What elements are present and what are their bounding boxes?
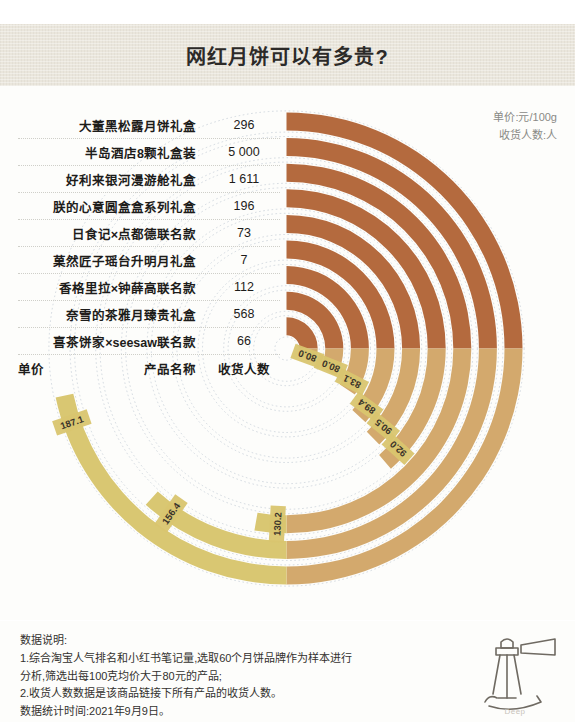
footnote-divider [0,620,575,621]
svg-text:130.2: 130.2 [271,512,283,536]
svg-text:83.1: 83.1 [341,372,363,391]
legend-unit-price: 单价:元/100g [493,108,557,126]
table-header-row: 单价 产品名称 收货人数 [18,355,280,381]
legend-unit-count: 收货人数:人 [493,126,557,144]
infographic-page: 网红月饼可以有多贵? 单价:元/100g 收货人数:人 187.1156.413… [0,0,575,722]
arc-value-label: 89.4 [350,392,384,422]
arc-value-label: 90.5 [367,411,400,442]
svg-text:187.1: 187.1 [59,413,86,431]
receipt-count: 1 611 [208,172,280,186]
page-title: 网红月饼可以有多贵? [186,41,388,70]
arc-value-label: 80.0 [290,344,324,369]
footnote-line-4: 数据统计时间:2021年9月9日。 [20,703,450,721]
table-row[interactable]: 朕的心意圆盒盒系列礼盒 196 [18,193,280,220]
arc-value-label: 187.1 [52,409,91,435]
footnote-heading: 数据说明: [20,632,450,650]
top-margin [0,0,575,24]
receipt-count: 66 [208,334,280,348]
product-name: 喜茶饼家×seesaw联名款 [18,332,208,351]
arc-value-label: 156.4 [154,494,187,533]
table-row[interactable]: 半岛酒店8颗礼盒装 5 000 [18,139,280,166]
column-header-count: 收货人数 [208,359,280,378]
receipt-count: 5 000 [208,145,280,159]
svg-text:92.0: 92.0 [388,439,409,460]
table-row[interactable]: 喜茶饼家×seesaw联名款 66 [18,328,280,355]
product-name: 香格里拉×钟薛高联名款 [18,278,208,297]
logo-caption: Deep [463,707,567,716]
receipt-count: 112 [208,280,280,294]
table-row[interactable]: 奈雪的茶雅月臻贵礼盒 568 [18,301,280,328]
receipt-count: 568 [208,307,280,321]
column-header-unit-price: 单价 [18,359,44,378]
arc-value-label: 130.2 [269,505,286,542]
svg-text:80.0: 80.0 [320,358,341,375]
product-table: 大董黑松露月饼礼盒 296 半岛酒店8颗礼盒装 5 000 好利来银河漫游舱礼盒… [18,112,280,381]
table-row[interactable]: 香格里拉×钟薛高联名款 112 [18,274,280,301]
receipt-count: 7 [208,253,280,267]
product-name: 日食记×点都德联名款 [18,224,208,243]
arc-value-label: 83.1 [335,368,369,395]
footnote-line-2: 分析,筛选出每100克均价大于80元的产品; [20,668,450,686]
svg-text:156.4: 156.4 [160,500,183,526]
legend: 单价:元/100g 收货人数:人 [493,108,557,144]
receipt-count: 296 [208,118,280,132]
product-name: 朕的心意圆盒盒系列礼盒 [18,197,208,216]
table-row[interactable]: 菓然匠子瑶台升明月礼盒 7 [18,247,280,274]
product-name: 菓然匠子瑶台升明月礼盒 [18,251,208,270]
footnote-line-3: 2.收货人数数据是该商品链接下所有产品的收货人数。 [20,685,450,703]
receipt-count: 73 [208,226,280,240]
brand-logo: Deep [463,628,567,718]
footnote-line-1: 1.综合淘宝人气排名和小红书笔记量,选取60个月饼品牌作为样本进行 [20,650,450,668]
column-header-product-name: 产品名称 [18,359,208,378]
svg-text:90.5: 90.5 [372,416,394,437]
arc-value-label: 80.0 [314,354,348,380]
product-name: 好利来银河漫游舱礼盒 [18,170,208,189]
table-row[interactable]: 日食记×点都德联名款 73 [18,220,280,247]
title-band: 网红月饼可以有多贵? [0,24,575,86]
footnote: 数据说明: 1.综合淘宝人气排名和小红书笔记量,选取60个月饼品牌作为样本进行 … [20,632,450,721]
svg-text:89.4: 89.4 [355,396,377,416]
table-row[interactable]: 大董黑松露月饼礼盒 296 [18,112,280,139]
arc-value-label: 92.0 [382,433,415,465]
receipt-count: 196 [208,199,280,213]
telescope-icon [463,628,567,710]
svg-text:80.0: 80.0 [297,348,318,365]
product-name: 奈雪的茶雅月臻贵礼盒 [18,305,208,324]
product-name: 大董黑松露月饼礼盒 [18,116,208,135]
product-name: 半岛酒店8颗礼盒装 [18,143,208,162]
table-row[interactable]: 好利来银河漫游舱礼盒 1 611 [18,166,280,193]
